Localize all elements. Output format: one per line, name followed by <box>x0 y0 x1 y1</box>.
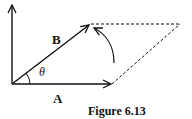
vector-a-label: A <box>53 91 63 106</box>
figure-caption: Figure 6.13 <box>88 104 146 118</box>
angle-label: θ <box>39 65 45 79</box>
dashed-right-side <box>112 24 180 84</box>
vector-diagram: B θ A Figure 6.13 <box>0 0 192 119</box>
angle-arc <box>26 73 30 84</box>
rotation-arrow <box>94 28 114 63</box>
vector-b-arrow <box>12 25 89 84</box>
vector-b-label: B <box>52 32 61 47</box>
